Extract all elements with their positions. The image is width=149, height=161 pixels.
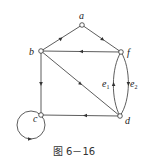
directed-graph: a b f c d e1 e2 图 6－16 bbox=[0, 0, 149, 161]
edge-e1-d-f bbox=[113, 52, 121, 116]
node-label-a: a bbox=[79, 10, 84, 21]
arrow-d-c bbox=[83, 114, 87, 118]
node-label-f: f bbox=[127, 47, 131, 58]
figure-caption: 图 6－16 bbox=[53, 146, 95, 157]
edge-label-e1: e1 bbox=[102, 78, 109, 90]
node-c bbox=[39, 113, 44, 118]
arrow-b-c bbox=[39, 82, 43, 86]
arrow-e1 bbox=[112, 82, 116, 86]
node-d bbox=[118, 114, 123, 119]
node-b bbox=[39, 49, 44, 54]
node-f bbox=[119, 50, 124, 55]
node-label-c: c bbox=[33, 113, 38, 124]
arrow-self-loop bbox=[28, 137, 32, 141]
node-label-b: b bbox=[29, 46, 34, 57]
arrow-f-b bbox=[79, 50, 83, 54]
arrow-a-f bbox=[100, 37, 104, 41]
node-a bbox=[80, 23, 85, 28]
edge-d-c bbox=[41, 115, 120, 116]
edge-e2-f-d bbox=[120, 52, 128, 116]
edge-label-e2: e2 bbox=[130, 78, 137, 90]
node-label-d: d bbox=[125, 115, 131, 126]
